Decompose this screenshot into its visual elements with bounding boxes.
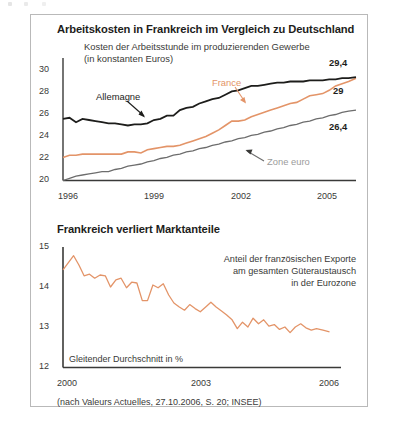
top-chart-plot: [31, 15, 369, 215]
top-chart-panel: Arbeitskosten in Frankreich im Vergleich…: [31, 15, 369, 215]
figure-frame: Arbeitskosten in Frankreich im Vergleich…: [30, 14, 368, 407]
bottom-chart-plot: [31, 215, 369, 408]
figure-root: Arbeitskosten in Frankreich im Vergleich…: [0, 0, 393, 427]
series-label-zone-euro: Zone euro: [267, 156, 310, 167]
bottom-chart-panel: Frankreich verliert Marktanteile 15 14 1…: [31, 215, 369, 408]
end-label-allemagne: 29,4: [329, 57, 347, 68]
end-label-france: 29: [333, 85, 343, 96]
source-note: (nach Valeurs Actuelles, 27.10.2006, S. …: [57, 397, 261, 407]
end-label-zone-euro: 26,4: [329, 121, 347, 132]
series-label-allemagne: Allemagne: [96, 91, 140, 102]
bottom-chart-annotation-line1: Anteil der französischen Exporte: [216, 253, 356, 265]
scan-artifact: [4, 1, 64, 7]
series-zone-euro: [63, 110, 356, 180]
series-label-france: France: [212, 77, 241, 88]
bottom-chart-inline-note: Gleitender Durchschnitt in %: [69, 354, 183, 364]
bottom-chart-annotation-line3: in der Eurozone: [216, 277, 356, 289]
bottom-chart-annotation-line2: am gesamten Güteraustausch: [216, 265, 356, 277]
